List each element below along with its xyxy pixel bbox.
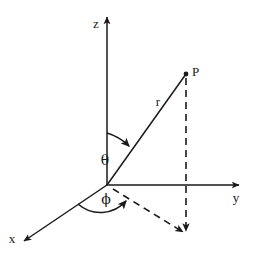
radius-length-label: r [156, 94, 161, 109]
spherical-coordinates-diagram: z y x P r θ ϕ [0, 0, 258, 257]
radius-line [107, 74, 186, 185]
point-p-label: P [192, 64, 199, 79]
theta-angle-label: θ [101, 152, 109, 168]
x-axis-label: x [9, 231, 16, 246]
z-axis-label: z [93, 16, 99, 31]
phi-angle-label: ϕ [101, 191, 111, 207]
axes-group [24, 17, 239, 241]
diagram-canvas: z y x P r θ ϕ [0, 0, 258, 257]
ground-dashed-projection [113, 189, 183, 232]
theta-angle-arc-group [107, 133, 129, 146]
radius-vector-group [107, 72, 188, 185]
point-p-marker [184, 72, 189, 77]
y-axis-label: y [233, 190, 240, 205]
theta-arc [107, 133, 129, 146]
projection-lines-group [113, 78, 186, 232]
x-axis-line [24, 185, 107, 241]
